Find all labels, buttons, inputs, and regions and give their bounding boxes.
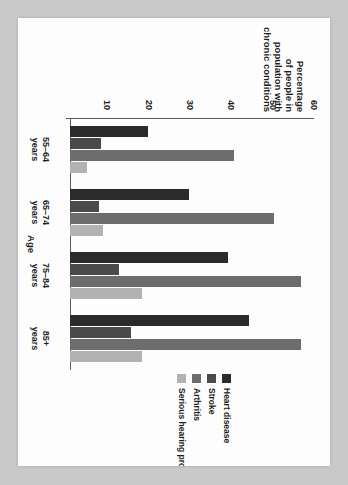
chart-legend: Heart diseaseStrokeArthritisSerious hear…	[172, 374, 232, 460]
legend-swatch-icon	[193, 374, 202, 383]
bar	[70, 126, 148, 137]
legend-label: Heart disease	[222, 388, 232, 443]
x-axis-title: Age	[26, 118, 37, 370]
legend-item: Stroke	[207, 374, 217, 460]
y-tick-label-30: 30	[185, 100, 195, 110]
bar	[70, 327, 131, 338]
bar	[70, 252, 228, 263]
bar	[70, 162, 87, 173]
category-label-line: 65–74	[41, 186, 52, 240]
bar	[70, 225, 103, 236]
bar	[70, 189, 189, 200]
chart-paper: Percentage of people in population with …	[18, 18, 330, 466]
bar	[70, 339, 301, 350]
legend-label: Stroke	[207, 388, 217, 414]
bar-group: 75–84years	[70, 249, 318, 303]
y-tick-label-50: 50	[268, 100, 278, 110]
y-axis-tick-labels: 102030405060	[66, 78, 314, 114]
legend-swatch-icon	[208, 374, 217, 383]
bar-group: 55–64years	[70, 123, 318, 177]
bar-chart: Percentage of people in population with …	[24, 22, 324, 462]
bar	[70, 150, 234, 161]
bar	[70, 213, 274, 224]
bar	[70, 288, 142, 299]
bar	[70, 351, 142, 362]
bar	[70, 138, 101, 149]
y-tick-label-40: 40	[226, 100, 236, 110]
chart-rotation-wrapper: Percentage of people in population with …	[18, 18, 330, 466]
y-tick-label-20: 20	[144, 100, 154, 110]
bar	[70, 264, 119, 275]
legend-label: Serious hearing problem	[177, 388, 187, 466]
bar-group: 85+years	[70, 312, 318, 366]
legend-item: Arthritis	[192, 374, 202, 460]
category-label-line: 85+	[41, 312, 52, 366]
category-label-line: 75–84	[41, 249, 52, 303]
legend-item: Heart disease	[222, 374, 232, 460]
bar	[70, 276, 301, 287]
bar	[70, 315, 249, 326]
bar-group: 65–74years	[70, 186, 318, 240]
page-background: Percentage of people in population with …	[0, 0, 348, 485]
plot-area: 55–64years65–74years75–84years85+years	[70, 118, 308, 370]
legend-item: Serious hearing problem	[177, 374, 187, 460]
legend-swatch-icon	[223, 374, 232, 383]
legend-swatch-icon	[178, 374, 187, 383]
y-tick-label-60: 60	[309, 100, 319, 110]
legend-label: Arthritis	[192, 388, 202, 421]
bar	[70, 201, 99, 212]
y-tick-label-10: 10	[102, 100, 112, 110]
category-label-line: 55–64	[41, 123, 52, 177]
